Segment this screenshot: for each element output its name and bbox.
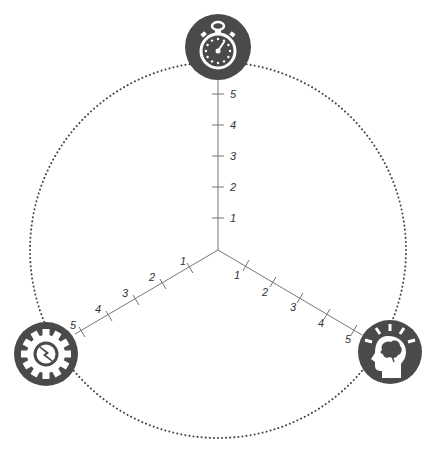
axis-tools [75,250,218,334]
three-axis-diagram: 1 2 3 4 5 1 2 3 4 5 1 2 3 4 5 [0,0,436,456]
tick-label: 5 [70,319,77,331]
tick-label: 3 [122,287,129,299]
tick-label: 4 [230,119,236,131]
tick-label: 1 [180,255,186,267]
tick-label: 3 [290,301,297,313]
tick-labels-tools: 1 2 3 4 5 [70,255,186,331]
tick-label: 4 [318,317,324,329]
tick-label: 1 [230,212,236,224]
axes [75,80,362,335]
axis-knowledge [218,250,362,335]
tick-label: 2 [148,271,155,283]
tick-label: 1 [234,269,240,281]
tick-label: 3 [230,150,237,162]
tick-labels-knowledge: 1 2 3 4 5 [234,269,352,345]
ticks-tools [79,263,193,337]
tick-label: 5 [345,333,352,345]
stopwatch-icon [185,14,251,80]
head-brain-lightbulb-icon [358,320,422,384]
tick-label: 5 [230,88,237,100]
tick-label: 4 [95,303,101,315]
gear-wrench-icon [14,322,78,386]
tick-labels-time: 1 2 3 4 5 [229,88,237,224]
ticks-knowledge [243,260,357,335]
tick-label: 2 [261,286,268,298]
tick-label: 2 [229,181,236,193]
